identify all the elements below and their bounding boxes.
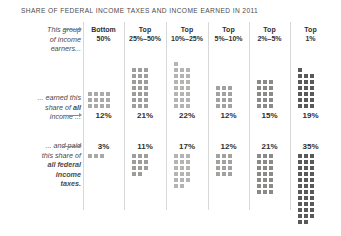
taxes-value-3: 12% [208, 142, 249, 151]
waffle-cell [268, 189, 274, 195]
leader-line-taxes [63, 146, 79, 147]
income-value-2: 22% [166, 111, 208, 120]
column-header-0-line1: Bottom [91, 26, 116, 33]
waffle-row [297, 103, 315, 109]
column-header-1: Top 25%–50% [124, 25, 166, 43]
waffle-row [215, 171, 233, 177]
waffle-cell [179, 183, 185, 189]
income-value-1: 21% [124, 111, 166, 120]
column-header-1-line2: 25%–50% [124, 34, 166, 43]
column-header-0: Bottom 50% [83, 25, 124, 43]
waffle-cell [227, 103, 233, 109]
row-label-group-line3: earners... [51, 44, 81, 53]
taxes-waffle-3 [215, 153, 233, 177]
row-label-income-line3: income ... [50, 112, 81, 121]
income-waffle-1 [131, 67, 149, 109]
row-label-taxes-line5: taxes. [61, 179, 81, 188]
column-header-2: Top 10%–25% [166, 25, 208, 43]
waffle-cell [268, 103, 274, 109]
column-header-3: Top 5%–10% [208, 25, 249, 43]
taxes-waffle-1 [131, 153, 149, 177]
taxes-value-4: 21% [249, 142, 290, 151]
leader-line-income [63, 115, 79, 116]
waffle-row [131, 103, 149, 109]
waffle-row [87, 103, 111, 109]
column-header-3-line1: Top [222, 26, 234, 33]
waffle-row [173, 183, 185, 189]
column-header-1-line1: Top [139, 26, 151, 33]
waffle-cell [303, 219, 309, 225]
taxes-waffle-5 [297, 153, 315, 225]
income-value-0: 12% [83, 111, 124, 120]
waffle-cell [185, 103, 191, 109]
row-label-income: ... earned this share of all income ... [17, 93, 81, 122]
waffle-cell [143, 103, 149, 109]
taxes-waffle-4 [256, 153, 274, 195]
row-label-taxes-line4: income [56, 170, 81, 179]
waffle-row [131, 171, 143, 177]
row-label-income-line1: ... earned this [37, 93, 81, 102]
column-header-3-line2: 5%–10% [208, 34, 249, 43]
waffle-row [256, 189, 274, 195]
taxes-value-5: 35% [290, 142, 331, 151]
column-header-0-line2: 50% [83, 34, 124, 43]
row-label-group-line2: of income [50, 35, 81, 44]
waffle-cell [185, 177, 191, 183]
income-waffle-4 [256, 79, 274, 109]
column-header-5-line1: Top [304, 26, 316, 33]
taxes-value-1: 11% [124, 142, 166, 151]
waffle-cell [309, 213, 315, 219]
taxes-waffle-0 [87, 153, 105, 159]
row-label-income-line2b: all [73, 103, 81, 112]
waffle-cell [99, 153, 105, 159]
infographic-root: SHARE OF FEDERAL INCOME TAXES AND INCOME… [0, 0, 341, 236]
waffle-cell [309, 103, 315, 109]
row-label-taxes-line3: all federal [47, 160, 81, 169]
leader-line-group [63, 29, 79, 30]
row-label-taxes: ... and paid this share of all federal i… [17, 141, 81, 189]
income-waffle-5 [297, 67, 315, 109]
taxes-value-0: 3% [83, 142, 124, 151]
page-title: SHARE OF FEDERAL INCOME TAXES AND INCOME… [21, 7, 258, 14]
waffle-cell [137, 171, 143, 177]
income-value-3: 12% [208, 111, 249, 120]
waffle-row [173, 103, 191, 109]
waffle-row [297, 219, 309, 225]
column-header-4-line2: 2%–5% [249, 34, 290, 43]
column-header-5: Top 1% [290, 25, 331, 43]
taxes-waffle-2 [173, 153, 191, 189]
income-waffle-2 [173, 61, 191, 109]
column-header-5-line2: 1% [290, 34, 331, 43]
taxes-value-2: 17% [166, 142, 208, 151]
waffle-cell [227, 171, 233, 177]
waffle-cell [143, 165, 149, 171]
income-waffle-0 [87, 91, 111, 109]
waffle-row [256, 103, 274, 109]
income-value-4: 15% [249, 111, 290, 120]
income-waffle-3 [215, 85, 233, 109]
waffle-cell [105, 103, 111, 109]
row-label-taxes-line2: this share of [42, 151, 81, 160]
column-header-4: Top 2%–5% [249, 25, 290, 43]
column-header-2-line2: 10%–25% [166, 34, 208, 43]
row-label-income-line2a: share of [45, 103, 73, 112]
income-value-5: 19% [290, 111, 331, 120]
waffle-row [87, 153, 105, 159]
column-header-4-line1: Top [263, 26, 275, 33]
waffle-row [215, 103, 233, 109]
column-header-2-line1: Top [181, 26, 193, 33]
